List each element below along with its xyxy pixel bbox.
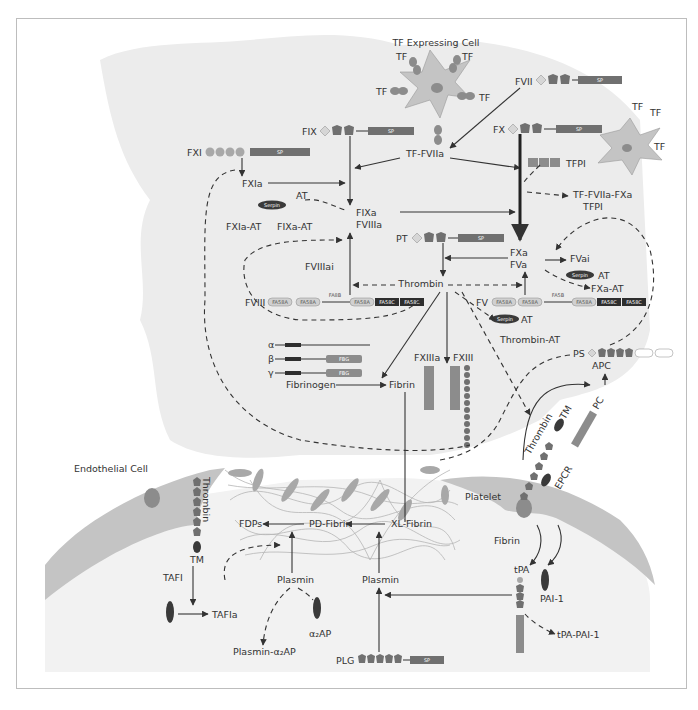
svg-text:FBG: FBG [339, 370, 349, 376]
pt-label: PT [396, 233, 408, 244]
fv-label: FV [476, 297, 488, 308]
alpha2ap-serpin [313, 597, 321, 619]
fxi-label: FXI [187, 147, 202, 158]
svg-text:SP: SP [388, 128, 394, 134]
tf-label: TF [478, 92, 490, 103]
fxiii-tg-domain [450, 366, 460, 410]
fva-label: FVa [510, 259, 527, 270]
svg-text:FA8B: FA8B [329, 292, 342, 298]
pc-protein [571, 411, 597, 448]
svg-text:SP: SP [277, 149, 283, 155]
nucleus-icon [144, 488, 160, 508]
svg-text:FA58A: FA58A [354, 299, 370, 305]
tafi-protein [166, 601, 174, 623]
svg-text:Serpin: Serpin [572, 272, 588, 279]
fix-label: FIX [302, 126, 317, 137]
fixa-at-label: FIXa-AT [277, 221, 313, 232]
tf-label: TF [649, 107, 661, 118]
svg-text:FA58C: FA58C [601, 299, 617, 305]
epcr-label: EPCR [552, 464, 574, 491]
fx-label: FX [493, 124, 505, 135]
fdps-label: FDPs [239, 518, 262, 529]
ps-protein [588, 348, 673, 357]
svg-text:FA58A: FA58A [576, 299, 592, 305]
fxa-label: FXa [510, 247, 528, 258]
tfpi-protein [528, 158, 560, 167]
fviiia-label: FVIIIa [356, 219, 382, 230]
svg-text:α: α [268, 339, 274, 350]
pai1-label: PAI-1 [540, 593, 564, 604]
svg-text:FA58A: FA58A [496, 299, 512, 305]
nucleus-icon [622, 144, 632, 152]
blood-region [100, 35, 650, 458]
fxa-at-label: FXa-AT [591, 283, 624, 294]
thrombin-label: Thrombin [397, 278, 443, 289]
fxi-protein: SP [206, 148, 311, 157]
svg-text:FBG: FBG [339, 356, 349, 362]
pai1-serpin [541, 569, 549, 591]
svg-text:SP: SP [424, 657, 430, 663]
serpin-badge: Serpin [258, 201, 286, 210]
tf-label: TF [375, 86, 387, 97]
plg-label: PLG [336, 655, 354, 666]
ps-label: PS [573, 348, 585, 359]
endothelial-cell-label: Endothelial Cell [74, 463, 148, 474]
tfpi-complex-label: TFPI [582, 201, 603, 212]
fvai-label: FVai [570, 253, 590, 264]
tf-label: TF [653, 141, 665, 152]
fviiiai-label: FVIIIai [305, 261, 334, 272]
fvii-label: FVII [515, 76, 533, 87]
tafi-label: TAFI [162, 572, 183, 583]
tf-fviia-fxa-label: TF-FVIIa-FXa [572, 189, 632, 200]
tf-label: TF [395, 51, 407, 62]
tpa-pai1-label: tPA-PAI-1 [557, 629, 599, 640]
serpin-badge: Serpin [491, 315, 519, 324]
svg-text:β: β [268, 353, 274, 364]
fibrinogen-label: Fibrinogen [286, 379, 336, 390]
pd-fibrin-label: PD-Fibrin [309, 518, 351, 529]
svg-text:SP: SP [576, 126, 582, 132]
tfpi-label: TFPI [565, 158, 586, 169]
platelet-label: Platelet [465, 491, 501, 502]
thrombin-at-label: Thrombin-AT [499, 334, 560, 345]
fibrin-mesh-label: Fibrin [494, 535, 520, 546]
tafia-label: TAFIa [211, 609, 238, 620]
tpa-protein [516, 577, 524, 653]
tf-label: TF [461, 51, 473, 62]
plasmin-left-label: Plasmin [277, 574, 314, 585]
at-label: AT [521, 314, 533, 325]
tm-label: TM [557, 403, 574, 421]
tf-fviia-label: TF-FVIIa [405, 148, 444, 159]
svg-text:FA58C: FA58C [626, 299, 642, 305]
fixa-label: FIXa [356, 207, 377, 218]
xl-fibrin-label: XL-Fibrin [391, 518, 432, 529]
tf-expressing-cell-label: TF Expressing Cell [392, 37, 480, 48]
serpin-badge: Serpin [566, 271, 594, 280]
svg-text:γ: γ [268, 367, 274, 378]
svg-text:FA58A: FA58A [272, 299, 288, 305]
apc-label: APC [592, 360, 611, 371]
svg-text:FA58C: FA58C [379, 299, 395, 305]
plasmin-alpha2ap-label: Plasmin-α₂AP [233, 646, 296, 657]
svg-text:FA58A: FA58A [522, 299, 538, 305]
coagulation-diagram: TF Expressing Cell TF TF TF TF TF TF TF … [0, 0, 698, 710]
fxiiia-tg-domain [424, 366, 434, 410]
svg-text:FA58A: FA58A [300, 299, 316, 305]
fxia-label: FXIa [242, 178, 263, 189]
fxiii-label: FXIII [453, 352, 473, 363]
fxia-at-label: FXIa-AT [226, 221, 262, 232]
fxiiia-label: FXIIIa [414, 352, 440, 363]
thrombin-left-label: Thrombin [201, 476, 212, 522]
fibrin-label: Fibrin [389, 379, 415, 390]
svg-text:FA5B: FA5B [552, 292, 565, 298]
alpha2ap-label: α₂AP [309, 628, 332, 639]
pc-label: PC [590, 394, 606, 411]
plasmin-right-label: Plasmin [362, 574, 399, 585]
tf-label: TF [631, 101, 643, 112]
tm-left-label: TM [189, 554, 204, 565]
svg-text:SP: SP [597, 77, 603, 83]
nucleus-icon [516, 498, 532, 518]
svg-text:Serpin: Serpin [264, 202, 280, 209]
svg-text:SP: SP [478, 235, 484, 241]
tpa-label: tPA [514, 564, 530, 575]
